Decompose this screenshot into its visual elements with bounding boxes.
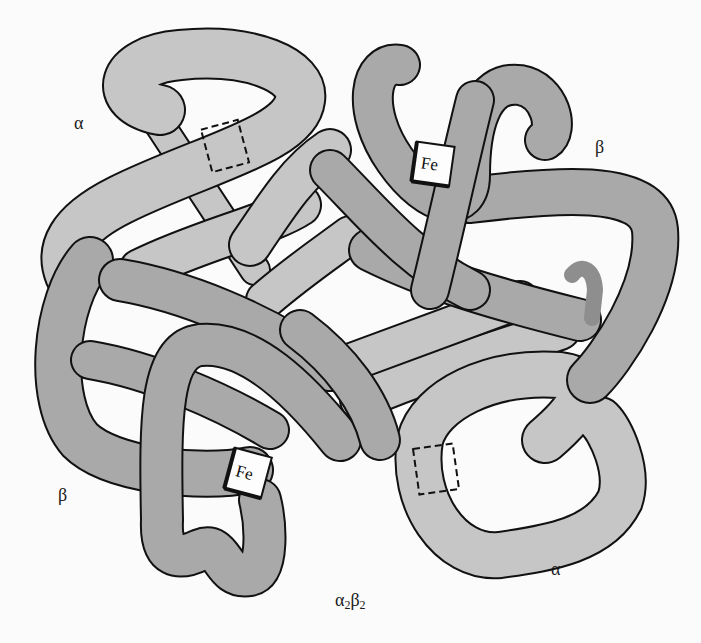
subunit-formula: α2β2: [335, 591, 366, 611]
chain-label-alpha-bottom-right: α: [551, 560, 560, 578]
chain-label-beta-bottom-left: β: [58, 486, 67, 504]
hemoglobin-diagram: .out { fill: none; stroke: #111; stroke-…: [0, 0, 701, 643]
heme-fe-box-top: Fe: [411, 142, 454, 187]
protein-chains-figure: .out { fill: none; stroke: #111; stroke-…: [0, 0, 701, 643]
fe-label-top: Fe: [420, 153, 439, 174]
formula-beta: β: [350, 590, 359, 610]
beta-tube-segment: [430, 100, 475, 290]
chain-label-beta-top-right: β: [595, 138, 604, 156]
beta-chain-bottom-left: Fe: [58, 260, 380, 575]
formula-beta-count: 2: [360, 598, 366, 612]
chain-label-alpha-top-left: α: [74, 114, 83, 132]
